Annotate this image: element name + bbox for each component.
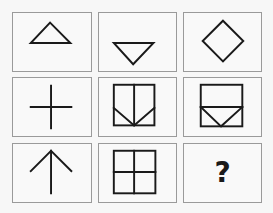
cell-r3-c1[interactable]: [12, 143, 92, 203]
cell-r2-c3[interactable]: [183, 77, 262, 137]
cell-r2-c1[interactable]: [12, 77, 92, 137]
cell-r1-c1[interactable]: [12, 12, 92, 72]
cell-r3-c2[interactable]: [98, 143, 177, 203]
triangle-up-icon: [13, 13, 91, 71]
puzzle-grid: ?: [0, 0, 273, 213]
cell-r3-c3-answer[interactable]: ?: [183, 143, 262, 203]
square-split-vertical-with-v-icon: [99, 78, 176, 136]
question-mark: ?: [184, 144, 261, 202]
arrow-up-icon: [13, 144, 91, 202]
diamond-icon: [184, 13, 261, 71]
cell-r2-c2[interactable]: [98, 77, 177, 137]
plus-cross-icon: [13, 78, 91, 136]
cell-r1-c3[interactable]: [183, 12, 262, 72]
cell-r1-c2[interactable]: [98, 12, 177, 72]
square-grid-2x2-icon: [99, 144, 176, 202]
square-split-horizontal-with-v-icon: [184, 78, 261, 136]
triangle-down-icon: [99, 13, 176, 71]
